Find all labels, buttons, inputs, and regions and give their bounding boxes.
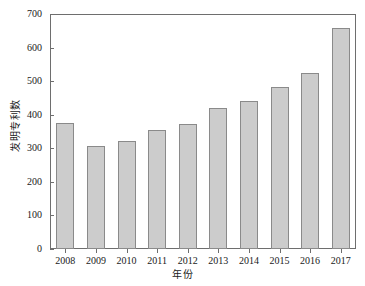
x-axis-tick-label: 2017 <box>321 255 361 266</box>
y-axis-tick-label: 0 <box>0 243 42 254</box>
y-axis-tick-label: 300 <box>0 142 42 153</box>
bar <box>209 108 227 249</box>
x-axis-tick-mark <box>310 249 311 253</box>
y-axis-tick-mark <box>50 115 54 116</box>
x-axis-tick-mark <box>157 249 158 253</box>
x-axis-tick-mark <box>218 249 219 253</box>
x-axis-tick-mark <box>65 249 66 253</box>
bar <box>148 130 166 249</box>
bar <box>179 124 197 249</box>
x-axis-title: 年份 <box>0 266 365 281</box>
y-axis-tick-mark <box>50 215 54 216</box>
x-axis-tick-mark <box>127 249 128 253</box>
y-axis-tick-label: 400 <box>0 109 42 120</box>
bar <box>56 123 74 249</box>
x-axis-tick-mark <box>249 249 250 253</box>
x-axis-tick-mark <box>188 249 189 253</box>
x-axis-tick-mark <box>96 249 97 253</box>
bar <box>240 101 258 249</box>
bar <box>301 73 319 249</box>
y-axis-tick-label: 100 <box>0 209 42 220</box>
y-axis-tick-mark <box>50 48 54 49</box>
bar <box>87 146 105 249</box>
y-axis-tick-label: 700 <box>0 8 42 19</box>
y-axis-tick-mark <box>50 14 54 15</box>
x-axis-tick-mark <box>341 249 342 253</box>
bar <box>271 87 289 249</box>
y-axis-tick-mark <box>50 148 54 149</box>
y-axis-tick-mark <box>50 249 54 250</box>
y-axis-tick-label: 600 <box>0 42 42 53</box>
y-axis-title: 发明专利数 <box>7 81 22 171</box>
y-axis-tick-label: 500 <box>0 75 42 86</box>
bar <box>118 141 136 249</box>
bar-chart: 发明专利数 0100200300400500600700 20082009201… <box>0 0 365 286</box>
x-axis-tick-mark <box>280 249 281 253</box>
y-axis-tick-mark <box>50 81 54 82</box>
bar <box>332 28 350 249</box>
y-axis-tick-mark <box>50 182 54 183</box>
y-axis-tick-label: 200 <box>0 176 42 187</box>
